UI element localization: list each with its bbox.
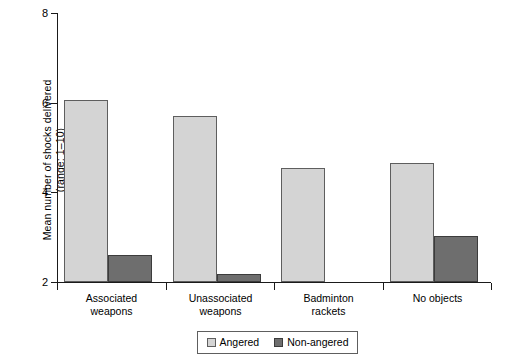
x-axis-category-label: Unassociatedweapons bbox=[166, 292, 275, 318]
x-axis-category-label: Badmintonrackets bbox=[274, 292, 383, 318]
y-axis-tick-label: 6 bbox=[4, 97, 48, 108]
legend-item-angered: Angered bbox=[207, 337, 260, 348]
bar-angered bbox=[173, 116, 217, 282]
y-axis-line bbox=[57, 13, 58, 283]
bar-angered bbox=[281, 168, 325, 282]
bar-angered bbox=[390, 163, 434, 282]
legend-label-angered: Angered bbox=[220, 337, 260, 348]
x-axis-tick bbox=[383, 283, 384, 290]
x-axis-tick bbox=[491, 283, 492, 290]
y-axis-tick-label: 2 bbox=[4, 277, 48, 288]
x-axis-category-label: Associatedweapons bbox=[57, 292, 166, 318]
legend-swatch-angered bbox=[207, 338, 216, 347]
y-axis-tick-label: 8 bbox=[4, 8, 48, 19]
bar-nonangered bbox=[108, 255, 152, 282]
x-axis-category-label: No objects bbox=[383, 292, 492, 305]
x-axis-category-label-line: weapons bbox=[166, 305, 275, 318]
bar-angered bbox=[64, 100, 108, 282]
legend-swatch-non-angered bbox=[274, 338, 283, 347]
x-axis-tick bbox=[57, 283, 58, 290]
x-axis-tick bbox=[166, 283, 167, 290]
y-axis-tick bbox=[51, 192, 58, 193]
x-axis-category-label-line: weapons bbox=[57, 305, 166, 318]
x-axis-category-label-line: No objects bbox=[383, 292, 492, 305]
y-axis-tick bbox=[51, 13, 58, 14]
bar-chart-figure: Mean number of shocks delivered (range: … bbox=[0, 0, 505, 362]
legend-label-non-angered: Non-angered bbox=[287, 337, 348, 348]
bar-nonangered bbox=[217, 274, 261, 282]
y-axis-title-line-1: Mean number of shocks delivered bbox=[41, 30, 54, 290]
x-axis-tick bbox=[274, 283, 275, 290]
legend-item-non-angered: Non-angered bbox=[274, 337, 348, 348]
x-axis-category-label-line: Unassociated bbox=[166, 292, 275, 305]
chart-legend: Angered Non-angered bbox=[197, 331, 358, 354]
bar-nonangered bbox=[434, 236, 478, 282]
x-axis-category-label-line: Associated bbox=[57, 292, 166, 305]
x-axis-category-label-line: Badminton bbox=[274, 292, 383, 305]
y-axis-tick bbox=[51, 103, 58, 104]
x-axis-category-label-line: rackets bbox=[274, 305, 383, 318]
y-axis-tick-label: 4 bbox=[4, 187, 48, 198]
